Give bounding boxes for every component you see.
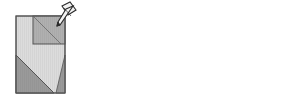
step-1-texture [16, 16, 65, 93]
paper-folding-diagram: Paper folding sequence Four-step diagram… [0, 0, 282, 103]
diagram-canvas [0, 0, 282, 103]
